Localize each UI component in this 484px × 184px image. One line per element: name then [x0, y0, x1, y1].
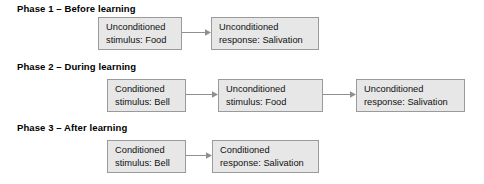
arrow-right-icon-phase3-1 [186, 151, 213, 160]
node-label-line-1: Unconditioned [219, 21, 314, 34]
node-label-line-1: Conditioned [220, 144, 314, 157]
arrow-right-icon-phase2-1 [186, 90, 219, 99]
node-unconditioned-response-salivation-phase2: Unconditioned response: Salivation [356, 79, 465, 112]
classical-conditioning-diagram: Phase 1 – Before learning Unconditioned … [0, 0, 484, 184]
phase-2-title: Phase 2 – During learning [17, 61, 136, 72]
node-unconditioned-stimulus-food-phase1: Unconditioned stimulus: Food [98, 17, 182, 50]
node-label-line-2: stimulus: Food [226, 96, 318, 109]
node-label-line-1: Conditioned [115, 83, 181, 96]
node-label-line-2: response: Salivation [220, 157, 314, 170]
arrow-right-icon-phase2-2 [323, 90, 357, 99]
node-label-line-2: stimulus: Bell [115, 96, 181, 109]
node-label-line-2: response: Salivation [364, 96, 460, 109]
node-conditioned-response-salivation-phase3: Conditioned response: Salivation [212, 140, 319, 173]
node-unconditioned-response-salivation-phase1: Unconditioned response: Salivation [211, 17, 319, 50]
node-conditioned-stimulus-bell-phase3: Conditioned stimulus: Bell [107, 140, 186, 173]
arrow-right-icon-phase1-1 [182, 28, 212, 37]
node-label-line-1: Unconditioned [106, 21, 177, 34]
node-label-line-2: stimulus: Bell [115, 157, 181, 170]
node-label-line-1: Conditioned [115, 144, 181, 157]
node-conditioned-stimulus-bell-phase2: Conditioned stimulus: Bell [107, 79, 186, 112]
node-label-line-2: stimulus: Food [106, 34, 177, 47]
phase-3-title: Phase 3 – After learning [17, 122, 127, 133]
phase-1-title: Phase 1 – Before learning [17, 3, 136, 14]
node-label-line-1: Unconditioned [226, 83, 318, 96]
node-label-line-2: response: Salivation [219, 34, 314, 47]
node-unconditioned-stimulus-food-phase2: Unconditioned stimulus: Food [218, 79, 323, 112]
node-label-line-1: Unconditioned [364, 83, 460, 96]
